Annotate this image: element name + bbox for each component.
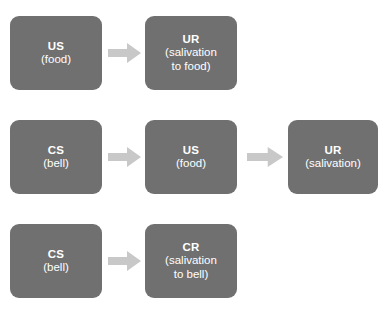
arrow-right-icon-cs-to-cr bbox=[108, 250, 141, 272]
node-sublabel-line: (salivation) bbox=[305, 157, 361, 171]
diagram-row-during-conditioning: CS(bell)US(food)UR(salivation) bbox=[0, 120, 387, 194]
node-sublabel: (salivationto food) bbox=[165, 46, 217, 73]
node-sublabel-line: (food) bbox=[176, 157, 206, 171]
node-sublabel-line: (food) bbox=[41, 53, 71, 67]
arrow-right-icon-us-to-ur bbox=[108, 42, 141, 64]
node-label: US bbox=[183, 144, 199, 157]
node-label: CS bbox=[48, 248, 64, 261]
conditioning-diagram: US(food)UR(salivationto food)CS(bell)US(… bbox=[0, 0, 387, 313]
node-label: CR bbox=[182, 241, 199, 254]
node-us-food: US(food) bbox=[10, 16, 102, 90]
node-sublabel: (salivationto bell) bbox=[165, 254, 217, 281]
node-sublabel-line: (bell) bbox=[43, 261, 69, 275]
diagram-row-before-conditioning: US(food)UR(salivationto food) bbox=[0, 16, 387, 90]
node-sublabel: (bell) bbox=[43, 261, 69, 275]
node-us-food-2: US(food) bbox=[145, 120, 237, 194]
node-sublabel-line: (salivation bbox=[165, 254, 217, 268]
arrow-right-icon-us-to-ur-2 bbox=[247, 146, 283, 168]
node-cr-salivation-to-bell: CR(salivationto bell) bbox=[145, 224, 237, 298]
node-sublabel: (food) bbox=[41, 53, 71, 67]
node-sublabel: (food) bbox=[176, 157, 206, 171]
node-cs-bell-2: CS(bell) bbox=[10, 224, 102, 298]
node-sublabel-line: to bell) bbox=[165, 268, 217, 282]
node-label: UR bbox=[324, 144, 341, 157]
arrow-right-icon-cs-to-us bbox=[108, 146, 141, 168]
node-ur-salivation-to-food: UR(salivationto food) bbox=[145, 16, 237, 90]
node-cs-bell: CS(bell) bbox=[10, 120, 102, 194]
node-label: UR bbox=[182, 33, 199, 46]
node-label: CS bbox=[48, 144, 64, 157]
node-ur-salivation: UR(salivation) bbox=[288, 120, 378, 194]
node-sublabel-line: (bell) bbox=[43, 157, 69, 171]
node-sublabel-line: to food) bbox=[165, 60, 217, 74]
node-sublabel-line: (salivation bbox=[165, 46, 217, 60]
node-label: US bbox=[48, 40, 64, 53]
diagram-row-after-conditioning: CS(bell)CR(salivationto bell) bbox=[0, 224, 387, 298]
node-sublabel: (bell) bbox=[43, 157, 69, 171]
node-sublabel: (salivation) bbox=[305, 157, 361, 171]
